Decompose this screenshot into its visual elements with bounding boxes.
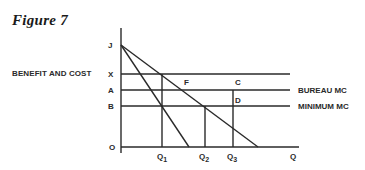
steep-benefit-line <box>121 45 189 147</box>
label-f: F <box>184 78 189 87</box>
label-a: A <box>108 86 114 95</box>
diagram-canvas: J X A B O F C D BUREAU MC MINIMUM MC Q1 … <box>0 0 365 170</box>
label-d: D <box>235 96 241 105</box>
label-origin: O <box>109 143 115 152</box>
label-b: B <box>108 102 114 111</box>
label-q3: Q3 <box>227 152 237 163</box>
minimum-mc-label: MINIMUM MC <box>298 102 349 111</box>
label-x: X <box>108 70 114 79</box>
label-j: J <box>108 41 112 50</box>
label-q1: Q1 <box>157 152 167 163</box>
label-c: C <box>235 78 241 87</box>
label-q-axis: Q <box>290 152 296 161</box>
label-q2: Q2 <box>199 152 209 163</box>
bureau-mc-label: BUREAU MC <box>298 86 347 95</box>
